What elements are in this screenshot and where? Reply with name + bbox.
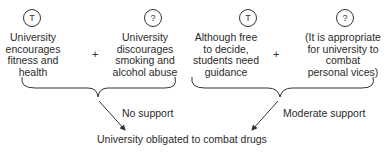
support-label-no: No support (122, 107, 173, 119)
marker-circle-t: T (239, 9, 257, 27)
marker-circle-t: T (23, 9, 41, 27)
premise-line: personal vices) (298, 67, 386, 79)
conclusion: University obligated to combat drugs (97, 133, 267, 145)
premise-line: University (0, 32, 66, 44)
premise-guidance: Although free to decide, students need g… (190, 32, 262, 78)
premise-smoking: University discourages smoking and alcoh… (104, 32, 186, 78)
plus-operator: + (92, 48, 98, 60)
premise-line: combat (298, 55, 386, 67)
left-brace (22, 77, 176, 97)
marker-circle-question: ? (336, 9, 354, 27)
support-label-moderate: Moderate support (283, 107, 365, 119)
plus-operator: + (273, 48, 279, 60)
premise-personal-vices: (It is appropriate for university to com… (298, 32, 386, 78)
arrow-moderate-support (252, 101, 278, 130)
premise-line: Although free (190, 32, 262, 44)
premise-line: smoking and (104, 55, 186, 67)
premise-line: (It is appropriate (298, 32, 386, 44)
premise-line: University (104, 32, 186, 44)
premise-line: students need (190, 55, 262, 67)
premise-line: fitness and (0, 55, 66, 67)
premise-line: alcohol abuse (104, 67, 186, 79)
right-brace (192, 77, 374, 97)
premise-line: health (0, 67, 66, 79)
premise-fitness: University encourages fitness and health (0, 32, 66, 78)
premise-line: guidance (190, 67, 262, 79)
marker-circle-question: ? (144, 9, 162, 27)
